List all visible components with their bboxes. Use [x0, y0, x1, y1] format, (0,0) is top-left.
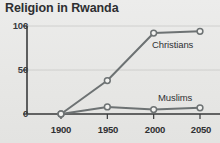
- data-point-muslims-2050: [197, 105, 203, 111]
- data-point-christians-1950: [104, 78, 110, 84]
- data-point-muslims-1950: [104, 104, 110, 110]
- series-line-muslims: [61, 107, 200, 114]
- data-point-muslims-2000: [151, 107, 157, 113]
- series-markers: [58, 28, 203, 117]
- data-point-christians-2050: [197, 28, 203, 34]
- plot-area: [0, 0, 220, 143]
- series-lines: [61, 31, 200, 114]
- data-point-christians-2000: [151, 30, 157, 36]
- gridlines: [27, 26, 220, 114]
- chart-container: Religion in Rwanda 100 50 0 1900 1950 20…: [0, 0, 220, 143]
- series-line-christians: [61, 31, 200, 114]
- data-point-muslims-1900: [58, 111, 64, 117]
